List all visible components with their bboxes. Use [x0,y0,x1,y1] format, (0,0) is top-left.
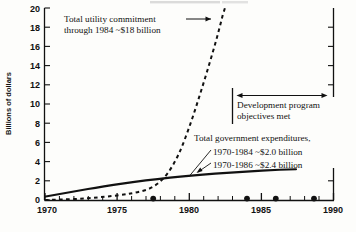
right-axis-ticks [328,27,334,181]
y-tick-label-10: 10 [30,99,40,109]
axis-marker-dot [311,196,317,202]
figure-container: 0 2 4 6 8 10 12 14 16 18 20 Billions of … [0,0,356,232]
axis-marker-dot [273,196,279,202]
leader-line-government-1984 [189,150,211,177]
y-tick-label-8: 8 [35,119,40,129]
annotation-government-line2: 1970-1984 ~$2.0 billion [213,147,303,157]
y-axis-ticks [45,8,51,200]
y-tick-label-20: 20 [30,4,40,14]
annotation-government-line1: Total government expenditures, [194,133,310,143]
annotation-development-line2: objectives met [237,111,291,121]
y-tick-label-18: 18 [30,23,40,33]
y-axis-title: Billions of dollars [4,72,13,135]
development-double-arrow [237,93,328,98]
leader-line-utility [186,17,211,22]
x-tick-label-1970: 1970 [37,205,57,215]
y-tick-label-6: 6 [35,138,40,148]
annotation-development-line1: Development program [237,100,320,110]
annotation-government-line3: 1970-1986 ~$2.4 billion [213,160,303,170]
x-tick-label-1980: 1980 [179,205,199,215]
series-government-expenditures-solid [45,169,296,196]
x-tick-label-1975: 1975 [107,205,127,215]
y-tick-label-16: 16 [30,42,40,52]
x-tick-label-1990: 1990 [323,205,343,215]
x-tick-label-1985: 1985 [251,205,271,215]
y-tick-label-4: 4 [35,157,40,167]
y-tick-label-2: 2 [35,176,40,186]
annotation-utility-line2: through 1984 ~$18 billion [64,25,161,35]
figure-title-fragment [150,1,248,3]
axis-marker-dot [150,196,156,202]
y-tick-label-0: 0 [35,195,40,205]
y-tick-label-12: 12 [30,80,40,90]
annotation-utility-line1: Total utility commitment [64,14,156,24]
y-tick-label-14: 14 [30,61,40,71]
axis-marker-dot [244,196,250,202]
